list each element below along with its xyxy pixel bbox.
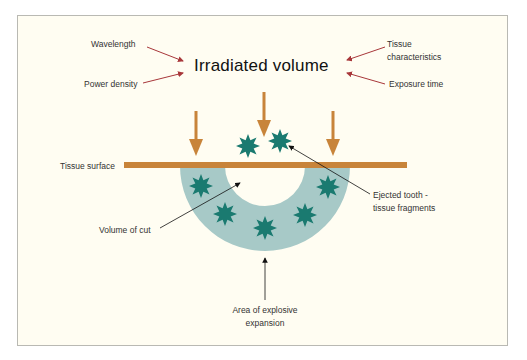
label-volume-of-cut: Volume of cut [99, 224, 151, 237]
label-explosive-expansion-1: Area of explosive [225, 304, 305, 317]
label-wavelength: Wavelength [91, 38, 136, 51]
label-tissue-characteristics-1: Tissue [387, 38, 412, 51]
label-exposure-time: Exposure time [389, 78, 443, 91]
label-tissue-characteristics-2: characteristics [387, 51, 441, 64]
label-ejected-fragments-2: tissue fragments [373, 202, 435, 215]
label-ejected-fragments-1: Ejected tooth - [373, 189, 428, 202]
tissue-surface-bar [124, 162, 407, 168]
label-tissue-surface: Tissue surface [60, 160, 115, 173]
diagram-title: Irradiated volume [194, 56, 329, 76]
label-power-density: Power density [84, 78, 137, 91]
label-explosive-expansion-2: expansion [225, 317, 305, 330]
laser-beam-arrows [189, 92, 340, 156]
